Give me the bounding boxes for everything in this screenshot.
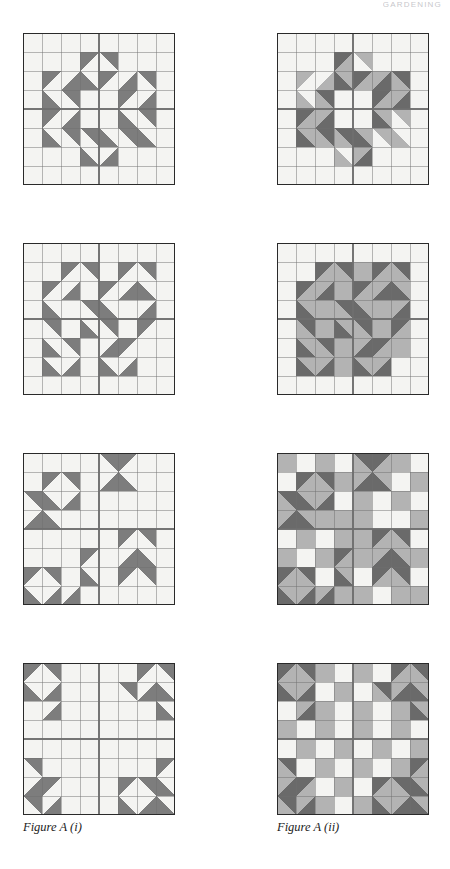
quilt-block-6 [277, 453, 429, 605]
scattered-block-row3-right [277, 453, 429, 605]
quilt-block-3 [23, 243, 175, 395]
scattered-block-row3-left [23, 453, 175, 605]
corner-arrow-block-row4-right [277, 663, 429, 815]
running-head: GARDENING [383, 0, 442, 7]
figure-caption-i: Figure A (i) [23, 820, 82, 835]
quilt-block-5 [23, 453, 175, 605]
figure-page: GARDENING Figure A (i) Figure A (ii) [0, 0, 450, 869]
star-block-row1-left [23, 33, 175, 185]
figure-caption-ii: Figure A (ii) [277, 820, 339, 835]
pinwheel-block-row2-left [23, 243, 175, 395]
quilt-block-7 [23, 663, 175, 815]
quilt-block-1 [23, 33, 175, 185]
corner-arrow-block-row4-left [23, 663, 175, 815]
quilt-block-2 [277, 33, 429, 185]
quilt-block-8 [277, 663, 429, 815]
star-block-row1-right [277, 33, 429, 185]
pinwheel-block-row2-right [277, 243, 429, 395]
quilt-block-4 [277, 243, 429, 395]
